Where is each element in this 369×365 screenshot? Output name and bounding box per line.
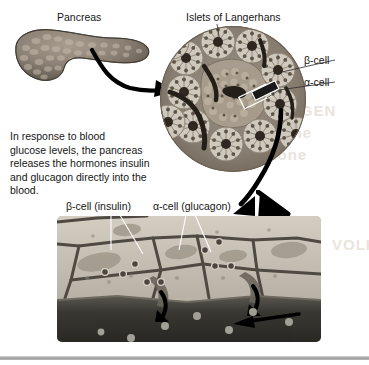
caption-line: blood. <box>10 184 180 198</box>
caption-line: In response to blood <box>10 130 180 144</box>
label-alpha-cell-glucagon: α-cell (glucagon) <box>153 200 231 213</box>
label-pancreas: Pancreas <box>57 11 101 24</box>
ghost-text-4: VOLKSWAGEN <box>332 236 369 253</box>
caption-line: releases the hormones insulin <box>10 157 180 171</box>
label-beta-cell-insulin: β-cell (insulin) <box>66 200 131 213</box>
caption-line: and glucagon directly into the <box>10 171 180 185</box>
bottom-divider <box>0 356 369 360</box>
figure-pancreas-hormones: VOLKSWAGEN Inside the hormone VOLKSWAGEN <box>0 0 369 365</box>
label-alpha-cell: α-cell <box>304 76 329 89</box>
label-beta-cell: β-cell <box>304 54 329 67</box>
leader-lines-bottom <box>95 206 235 268</box>
pancreas-islet-marker <box>86 24 96 34</box>
leader-lines-top <box>155 12 360 122</box>
caption-text: In response to blood glucose levels, the… <box>10 130 180 198</box>
caption-line: glucose levels, the pancreas <box>10 144 180 158</box>
label-islets-of-langerhans: Islets of Langerhans <box>186 11 281 24</box>
